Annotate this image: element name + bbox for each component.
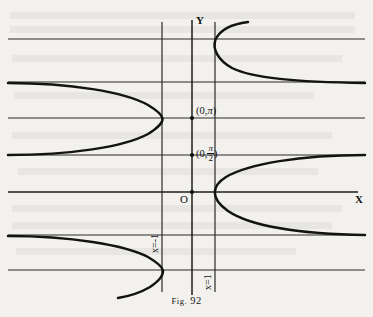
origin-label: O — [180, 194, 188, 205]
figure-92: Y X O (0,π) (0,π2) x=-1 x=1 Fig. 92 — [0, 0, 373, 317]
figure-caption-number: 92 — [190, 295, 201, 306]
point-label-0-half-pi: (0,π2) — [196, 144, 217, 163]
x-axis-label: X — [355, 194, 363, 205]
y-axis-label: Y — [196, 15, 204, 26]
marked-point-0-half-pi — [190, 153, 194, 157]
point-pi-close: ) — [213, 105, 217, 116]
figure-caption: Fig. 92 — [0, 295, 373, 306]
point-label-0-pi: (0,π) — [196, 106, 216, 117]
marked-point-origin — [190, 190, 194, 194]
line-label-x-equals-1: x=1 — [203, 274, 213, 290]
marked-point-0-pi — [190, 116, 194, 120]
point-halfpi-open: (0, — [196, 148, 207, 159]
figure-drawing — [0, 0, 373, 317]
point-halfpi-close: ) — [214, 148, 218, 159]
point-pi-open: (0, — [196, 105, 207, 116]
figure-caption-prefix: Fig. — [171, 296, 187, 306]
line-label-x-equals-negative-1: x=-1 — [150, 234, 160, 253]
